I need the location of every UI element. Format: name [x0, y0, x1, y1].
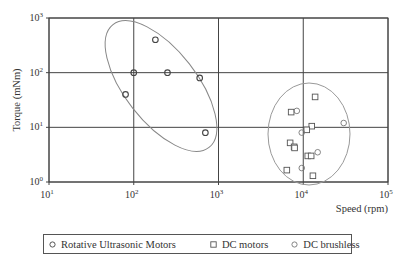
data-point-square: [312, 94, 318, 100]
legend-label: DC brushless: [303, 239, 359, 250]
data-point-circle: [153, 37, 159, 43]
y-tick-labels: 100101102103: [30, 11, 44, 187]
circle-marker-icon: [291, 241, 298, 248]
x-tick-label: 104: [295, 188, 309, 200]
x-axis-label: Speed (rpm): [336, 203, 389, 215]
grid: [46, 18, 388, 185]
legend-label: DC motors: [222, 239, 268, 250]
data-point-circle: [341, 120, 347, 126]
y-tick-label: 102: [30, 66, 44, 78]
circle-marker-icon: [49, 241, 56, 248]
y-tick-label: 101: [30, 120, 44, 132]
x-tick-label: 105: [379, 188, 393, 200]
data-point-circle: [315, 149, 321, 155]
x-tick-labels: 101102103104105: [40, 188, 393, 200]
legend-label: Rotative Ultrasonic Motors: [61, 239, 176, 250]
data-point-square: [284, 167, 290, 173]
legend-item-dc-motors: DC motors: [210, 239, 268, 250]
square-marker-icon: [210, 241, 217, 248]
data-point-circle: [123, 92, 129, 98]
data-point-square: [308, 153, 314, 159]
x-tick-label: 102: [125, 188, 139, 200]
data-point-circle: [203, 130, 209, 136]
data-point-square: [292, 145, 298, 151]
data-point-circle: [294, 108, 300, 114]
ultrasonic-cluster-ellipse: [85, 2, 238, 169]
x-tick-label: 101: [40, 188, 54, 200]
legend-item-dc-brushless: DC brushless: [291, 239, 359, 250]
legend: Rotative Ultrasonic Motors DC motors DC …: [43, 234, 352, 254]
dc-cluster-ellipse: [268, 83, 350, 185]
data-point-square: [310, 173, 316, 179]
y-tick-label: 103: [30, 11, 44, 23]
legend-item-ultrasonic: Rotative Ultrasonic Motors: [49, 239, 176, 250]
y-axis-label: Torque (mNm): [11, 68, 23, 132]
data-points: [123, 37, 347, 179]
x-tick-label: 103: [210, 188, 224, 200]
chart: 101102103104105 100101102103 Speed (rpm)…: [0, 0, 409, 269]
data-point-square: [288, 109, 294, 115]
y-tick-label: 100: [30, 175, 44, 187]
